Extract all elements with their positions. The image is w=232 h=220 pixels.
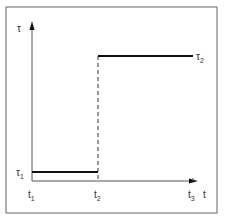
x-axis-label: t — [203, 189, 206, 200]
tau1-label: τ1 — [16, 167, 24, 180]
t3-label: t3 — [188, 189, 195, 202]
tau2-label: τ2 — [196, 51, 204, 64]
t1-label: t1 — [28, 189, 35, 202]
step-diagram: τ t τ1 τ2 t1 t2 t3 — [0, 0, 232, 220]
y-axis-label: τ — [17, 23, 21, 34]
frame-border — [6, 7, 217, 213]
y-axis-arrow-icon — [30, 21, 35, 30]
t2-label: t2 — [94, 189, 101, 202]
